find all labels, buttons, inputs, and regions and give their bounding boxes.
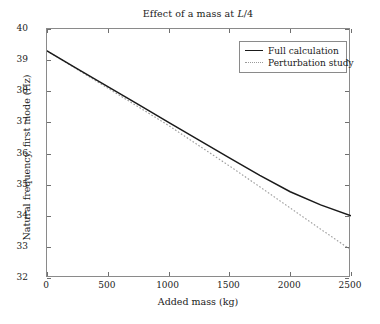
- x-tick-mark: [169, 272, 170, 276]
- legend-swatch-dotted-line-icon: [244, 58, 264, 68]
- x-axis-title: Added mass (kg): [46, 296, 350, 307]
- y-tick-label: 37: [4, 116, 28, 126]
- y-tick-mark: [47, 216, 51, 217]
- x-tick-label: 1500: [208, 280, 248, 290]
- y-tick-mark: [47, 278, 51, 279]
- y-tick-label: 34: [4, 210, 28, 220]
- legend-box[interactable]: Full calculation Perturbation study: [239, 41, 347, 73]
- legend-item-full-calculation[interactable]: Full calculation: [244, 45, 342, 57]
- y-tick-mark: [345, 278, 349, 279]
- y-tick-label: 38: [4, 85, 28, 95]
- x-tick-mark: [108, 272, 109, 276]
- y-tick-mark: [47, 247, 51, 248]
- x-tick-mark: [169, 29, 170, 33]
- y-tick-label: 33: [4, 241, 28, 251]
- y-tick-mark: [345, 216, 349, 217]
- x-tick-label: 2500: [330, 280, 370, 290]
- y-tick-mark: [47, 154, 51, 155]
- x-tick-label: 0: [26, 280, 66, 290]
- x-tick-mark: [47, 272, 48, 276]
- x-tick-label: 1000: [148, 280, 188, 290]
- y-tick-mark: [345, 154, 349, 155]
- series-line-perturbation-study: [47, 51, 351, 250]
- y-tick-mark: [47, 91, 51, 92]
- legend-label-full-calculation: Full calculation: [268, 46, 339, 56]
- x-tick-mark: [290, 29, 291, 33]
- x-tick-mark: [108, 29, 109, 33]
- chart-title: Effect of a mass at L/4: [46, 8, 350, 19]
- y-tick-label: 39: [4, 54, 28, 64]
- x-tick-mark: [47, 29, 48, 33]
- x-tick-label: 500: [87, 280, 127, 290]
- y-tick-mark: [47, 185, 51, 186]
- y-tick-mark: [345, 29, 349, 30]
- y-tick-label: 36: [4, 148, 28, 158]
- x-tick-mark: [351, 272, 352, 276]
- legend-swatch-solid-line-icon: [244, 46, 264, 56]
- x-tick-mark: [229, 272, 230, 276]
- y-tick-mark: [47, 60, 51, 61]
- x-tick-label: 2000: [269, 280, 309, 290]
- x-tick-mark: [290, 272, 291, 276]
- y-tick-mark: [47, 122, 51, 123]
- y-tick-mark: [345, 122, 349, 123]
- y-tick-mark: [345, 91, 349, 92]
- x-tick-mark: [229, 29, 230, 33]
- y-tick-mark: [345, 247, 349, 248]
- legend-item-perturbation-study[interactable]: Perturbation study: [244, 57, 342, 69]
- series-line-full-calculation: [47, 51, 351, 216]
- chart-title-before: Effect of a mass at: [143, 8, 238, 19]
- chart-title-after: /4: [244, 8, 253, 19]
- y-tick-label: 40: [4, 23, 28, 33]
- legend-label-perturbation-study: Perturbation study: [268, 58, 354, 68]
- figure-canvas: Effect of a mass at L/4 Natural frequenc…: [0, 0, 380, 324]
- x-tick-mark: [351, 29, 352, 33]
- y-tick-label: 35: [4, 179, 28, 189]
- y-tick-mark: [345, 185, 349, 186]
- y-tick-label: 32: [4, 272, 28, 282]
